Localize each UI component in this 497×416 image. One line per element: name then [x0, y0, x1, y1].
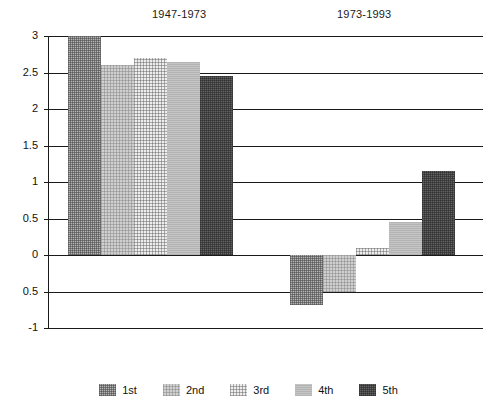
legend-item-3rd: 3rd: [230, 384, 269, 396]
plot-area: 32.521.510.500.5-1: [0, 0, 497, 360]
y-tick-mark: [44, 182, 49, 183]
legend-swatch-4th: [295, 384, 312, 396]
legend-label-2nd: 2nd: [186, 384, 204, 396]
bar-chart: 1947-1973 1973-1993 32.521.510.500.5-1 1…: [0, 0, 497, 416]
legend-swatch-1st: [99, 384, 116, 396]
y-tick-mark: [44, 328, 49, 329]
y-tick-mark: [44, 36, 49, 37]
bar-1973-1993-5th: [422, 171, 455, 255]
y-tick-label: 1: [4, 175, 38, 187]
y-tick-mark: [44, 73, 49, 74]
bar-1947-1973-1st: [68, 36, 101, 255]
y-tick-mark: [44, 109, 49, 110]
y-tick-mark: [44, 219, 49, 220]
legend-item-5th: 5th: [359, 384, 397, 396]
gridline: [48, 328, 483, 329]
y-tick-label: 1.5: [4, 139, 38, 151]
legend-label-3rd: 3rd: [253, 384, 269, 396]
legend-label-5th: 5th: [382, 384, 397, 396]
bar-1947-1973-3rd: [134, 58, 167, 255]
y-tick-label: 3: [4, 29, 38, 41]
bar-1973-1993-1st: [290, 255, 323, 305]
chart-legend: 1st2nd3rd4th5th: [0, 378, 497, 402]
bar-1947-1973-5th: [200, 76, 233, 255]
bar-1947-1973-2nd: [101, 65, 134, 255]
legend-item-2nd: 2nd: [163, 384, 204, 396]
legend-swatch-3rd: [230, 384, 247, 396]
y-tick-label: 0: [4, 248, 38, 260]
y-tick-label: 2.5: [4, 66, 38, 78]
y-tick-label: -1: [4, 321, 38, 333]
legend-item-1st: 1st: [99, 384, 137, 396]
bar-1973-1993-2nd: [323, 255, 356, 292]
y-tick-mark: [44, 292, 49, 293]
legend-label-1st: 1st: [122, 384, 137, 396]
bar-1973-1993-4th: [389, 222, 422, 255]
y-tick-label: 0.5: [4, 285, 38, 297]
gridline: [48, 292, 483, 293]
gridline: [48, 255, 483, 256]
y-tick-mark: [44, 255, 49, 256]
y-tick-label: 0.5: [4, 212, 38, 224]
legend-item-4th: 4th: [295, 384, 333, 396]
y-tick-mark: [44, 146, 49, 147]
bar-1947-1973-4th: [167, 62, 200, 255]
y-tick-label: 2: [4, 102, 38, 114]
bar-1973-1993-3rd: [356, 248, 389, 255]
legend-swatch-2nd: [163, 384, 180, 396]
legend-label-4th: 4th: [318, 384, 333, 396]
legend-swatch-5th: [359, 384, 376, 396]
gridline: [48, 36, 483, 37]
